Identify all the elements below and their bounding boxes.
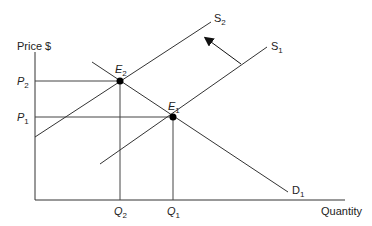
shift-arrow-icon (207, 39, 241, 64)
label-s2: S2 (214, 12, 226, 27)
label-p1: P1 (17, 111, 29, 126)
label-q2: Q2 (114, 205, 128, 220)
supply-curve-s1 (100, 47, 267, 164)
supply-demand-diagram: Price $ Quantity S2 S1 D1 E2 E1 P2 P1 Q2… (0, 0, 372, 226)
label-q1: Q1 (167, 205, 181, 220)
label-d1: D1 (292, 184, 305, 199)
label-e2: E2 (115, 63, 127, 78)
label-s1: S1 (271, 40, 283, 55)
equilibrium-point-e2 (117, 78, 124, 85)
x-axis-label: Quantity (321, 205, 362, 217)
label-p2: P2 (17, 75, 29, 90)
y-axis-label: Price $ (17, 40, 51, 52)
label-e1: E1 (168, 100, 180, 115)
